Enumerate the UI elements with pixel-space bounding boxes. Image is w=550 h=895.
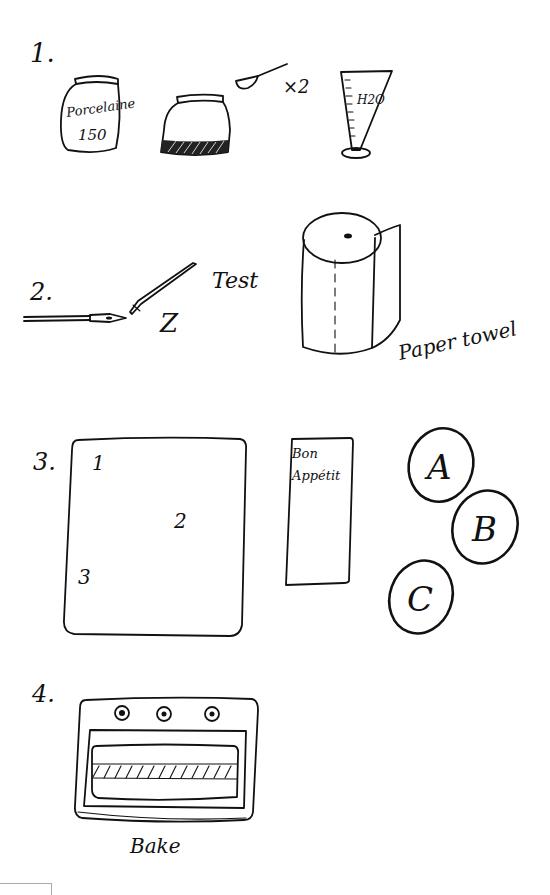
paper-towel-label: Paper towel: [395, 316, 519, 365]
coaster-c: C: [379, 552, 463, 643]
spoon-multiplier: ×2: [283, 76, 310, 97]
coaster-letter: C: [407, 579, 433, 619]
step-number: 1.: [30, 38, 55, 68]
brush-icon: [130, 263, 196, 314]
jar-label-line2: 150: [78, 126, 107, 144]
step-number: 3.: [33, 448, 56, 476]
sheet-mark-3: 3: [78, 565, 91, 589]
coaster-letter: B: [471, 509, 497, 549]
cup-label: H2O: [356, 93, 385, 107]
card-label-line2: Appétit: [291, 468, 341, 483]
oven-label: Bake: [129, 834, 181, 858]
paper-towel-icon: Paper towel: [302, 213, 519, 365]
oven-icon: [75, 698, 258, 822]
measuring-cup-icon: H2O: [341, 71, 392, 158]
sheet-mark-1: 1: [92, 451, 105, 475]
test-label: Test: [212, 268, 258, 293]
instruction-illustration: 1. Porcelaine 150 ×2: [0, 0, 550, 895]
porcelain-jar-icon: Porcelaine 150: [61, 76, 137, 152]
glaze-jar-icon: [161, 95, 230, 155]
spoon-icon: ×2: [236, 64, 310, 97]
step-number: 2.: [29, 278, 53, 306]
step-2: 2. Test Z Paper towel: [24, 213, 519, 365]
sheet-mark-2: 2: [173, 509, 187, 533]
dip-pen-icon: [24, 314, 126, 322]
bon-appetit-card: Bon Appétit: [286, 438, 353, 585]
step-number: 4.: [31, 680, 55, 708]
step-3: 3. 1 2 3 Bon Appétit A B C: [33, 421, 528, 642]
card-label-line1: Bon: [291, 446, 318, 461]
coaster-b: B: [442, 481, 527, 572]
corner-frame: [0, 883, 52, 895]
coaster-letter: A: [424, 447, 452, 487]
stroke-sample: Z: [159, 308, 179, 338]
jar-label-line1: Porcelaine: [64, 95, 136, 120]
step-4: 4. Bake: [31, 680, 258, 858]
paper-sheet: 1 2 3: [64, 438, 246, 636]
step-1: 1. Porcelaine 150 ×2: [30, 38, 392, 158]
